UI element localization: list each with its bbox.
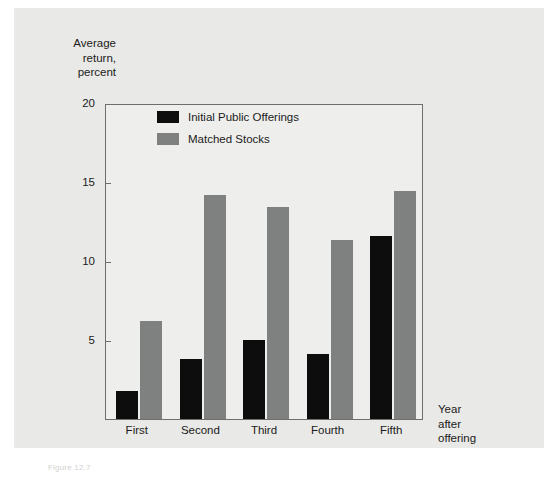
- legend-swatch-ipo: [157, 111, 179, 123]
- y-tick-label: 20: [69, 98, 95, 109]
- y-tick-label: 15: [69, 177, 95, 188]
- figure-caption: Figure 12.7: [48, 463, 91, 472]
- bar-matched: [394, 191, 416, 419]
- x-tick-label: Fourth: [296, 424, 360, 437]
- bar-ipo: [180, 359, 202, 419]
- bar-matched: [204, 195, 226, 419]
- bar-group: [297, 105, 361, 419]
- bar-ipo: [243, 340, 265, 419]
- bar-ipo: [307, 354, 329, 419]
- y-tick-mark: [106, 183, 111, 184]
- y-tick-mark: [106, 341, 111, 342]
- x-tick-label: First: [105, 424, 169, 437]
- bar-group: [360, 105, 424, 419]
- bar-matched: [331, 240, 353, 419]
- legend-swatch-matched: [157, 133, 179, 145]
- x-tick-label: Second: [169, 424, 233, 437]
- y-axis-title: Average return, percent: [44, 36, 116, 80]
- bar-ipo: [370, 236, 392, 419]
- bar-matched: [140, 321, 162, 419]
- x-axis-title: Year after offering: [438, 402, 476, 446]
- x-tick-label: Third: [232, 424, 296, 437]
- legend-item-ipo: Initial Public Offerings: [157, 110, 299, 123]
- bar-matched: [267, 207, 289, 419]
- y-tick-label: 5: [69, 335, 95, 346]
- y-tick-label: 10: [69, 256, 95, 267]
- x-tick-label: Fifth: [359, 424, 423, 437]
- legend-label-ipo: Initial Public Offerings: [188, 111, 299, 123]
- y-tick-mark: [106, 262, 111, 263]
- figure-panel: Average return, percent Initial Public O…: [14, 8, 544, 448]
- legend-item-matched: Matched Stocks: [157, 132, 299, 145]
- legend-label-matched: Matched Stocks: [188, 133, 270, 145]
- bar-ipo: [116, 391, 138, 419]
- chart-legend: Initial Public Offerings Matched Stocks: [157, 110, 299, 154]
